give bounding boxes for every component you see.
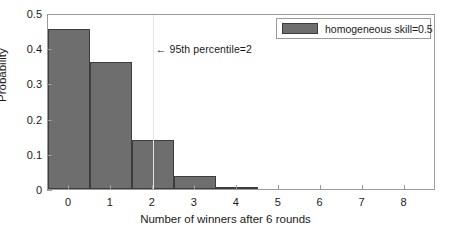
y-tick-label: 0.5 xyxy=(27,8,42,20)
legend-swatch-homogeneous xyxy=(282,23,318,34)
x-tick-mark xyxy=(110,185,111,190)
bar-4 xyxy=(216,187,258,189)
y-axis-title: Probability xyxy=(0,48,8,102)
y-tick-mark xyxy=(47,190,52,191)
x-tick-mark xyxy=(152,185,153,190)
x-tick-label: 2 xyxy=(149,196,155,208)
x-tick-label: 7 xyxy=(359,196,365,208)
y-tick-label: 0.4 xyxy=(27,43,42,55)
x-tick-label: 4 xyxy=(233,196,239,208)
bar-series xyxy=(48,15,434,189)
y-tick-mark xyxy=(47,84,52,85)
y-tick-mark xyxy=(47,49,52,50)
x-tick-label: 1 xyxy=(107,196,113,208)
y-tick-label: 0.3 xyxy=(27,78,42,90)
x-tick-mark xyxy=(278,185,279,190)
x-tick-mark xyxy=(320,185,321,190)
legend-label-homogeneous: homogeneous skill=0.5 xyxy=(325,23,433,35)
x-axis-title: Number of winners after 6 rounds xyxy=(0,213,451,225)
x-tick-label: 0 xyxy=(65,196,71,208)
y-tick-mark xyxy=(47,14,52,15)
bar-3 xyxy=(174,176,216,189)
legend[interactable]: homogeneous skill=0.5 xyxy=(276,18,431,39)
plot-area: ← 95th percentile=2 xyxy=(47,14,435,190)
x-tick-mark xyxy=(404,185,405,190)
bar-1 xyxy=(90,62,132,189)
x-tick-mark xyxy=(236,185,237,190)
y-tick-mark xyxy=(47,120,52,121)
x-tick-label: 6 xyxy=(317,196,323,208)
x-tick-label: 5 xyxy=(275,196,281,208)
x-tick-mark xyxy=(362,185,363,190)
x-tick-mark xyxy=(68,185,69,190)
y-tick-label: 0.1 xyxy=(27,149,42,161)
y-tick-label: 0.2 xyxy=(27,114,42,126)
percentile-line xyxy=(153,15,154,189)
percentile-annotation: ← 95th percentile=2 xyxy=(156,43,252,55)
figure: Probability ← 95th percentile=2 00.10.20… xyxy=(0,0,451,238)
x-tick-label: 8 xyxy=(400,196,406,208)
y-tick-mark xyxy=(47,155,52,156)
x-tick-mark xyxy=(194,185,195,190)
y-tick-label: 0 xyxy=(36,184,42,196)
x-tick-label: 3 xyxy=(191,196,197,208)
bar-0 xyxy=(48,29,90,190)
